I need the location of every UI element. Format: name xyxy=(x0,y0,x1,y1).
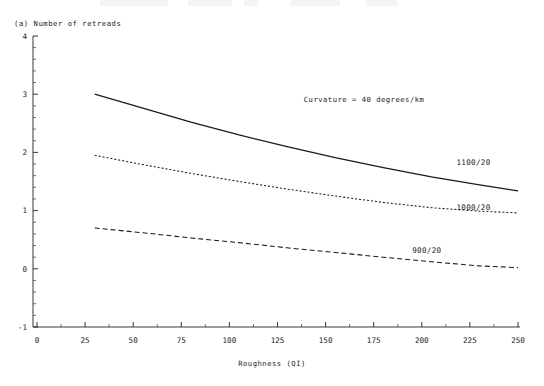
series-line-900-20 xyxy=(95,228,518,268)
x-tick-label: 50 xyxy=(118,336,148,345)
series-label-900-20: 900/20 xyxy=(412,246,441,255)
x-tick-label: 150 xyxy=(311,336,341,345)
y-tick-label: 3 xyxy=(5,90,27,99)
series-label-1100-20: 1100/20 xyxy=(456,158,490,167)
series-line-1100-20 xyxy=(95,94,518,191)
y-tick-label: 1 xyxy=(5,206,27,215)
x-tick-label: 100 xyxy=(214,336,244,345)
y-tick-label: -1 xyxy=(5,323,27,332)
x-tick-label: 75 xyxy=(166,336,196,345)
x-axis-title: Roughness (QI) xyxy=(0,359,544,368)
data-series xyxy=(95,94,518,267)
x-tick-label: 125 xyxy=(263,336,293,345)
x-tick-label: 25 xyxy=(70,336,100,345)
y-tick-label: 2 xyxy=(5,148,27,157)
chart-figure: (a) Number of retreads -101234 025507510… xyxy=(0,0,544,386)
x-tick-label: 250 xyxy=(503,336,533,345)
x-tick-label: 0 xyxy=(22,336,52,345)
x-tick-label: 200 xyxy=(407,336,437,345)
x-tick-label: 225 xyxy=(455,336,485,345)
axes xyxy=(33,36,520,327)
chart-annotation: Curvature = 40 degrees/km xyxy=(304,95,425,104)
chart-canvas xyxy=(0,0,544,386)
x-tick-label: 175 xyxy=(359,336,389,345)
y-tick-label: 0 xyxy=(5,265,27,274)
series-label-1000-20: 1000/20 xyxy=(456,203,490,212)
series-line-1000-20 xyxy=(95,155,518,213)
y-tick-label: 4 xyxy=(5,32,27,41)
